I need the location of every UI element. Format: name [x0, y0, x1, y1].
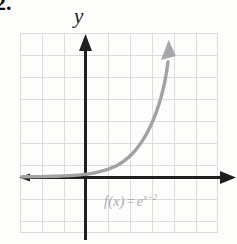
y-axis: [79, 34, 92, 240]
exponential-function-figure: 2. y: [0, 0, 237, 244]
equation-equals: =: [125, 194, 137, 209]
equation-function-name: f(x): [104, 194, 125, 209]
equation-exponent-constant: 2: [152, 192, 157, 202]
function-equation-label: f(x)=ex−2: [104, 192, 157, 210]
equation-exponent: x−2: [143, 192, 157, 202]
